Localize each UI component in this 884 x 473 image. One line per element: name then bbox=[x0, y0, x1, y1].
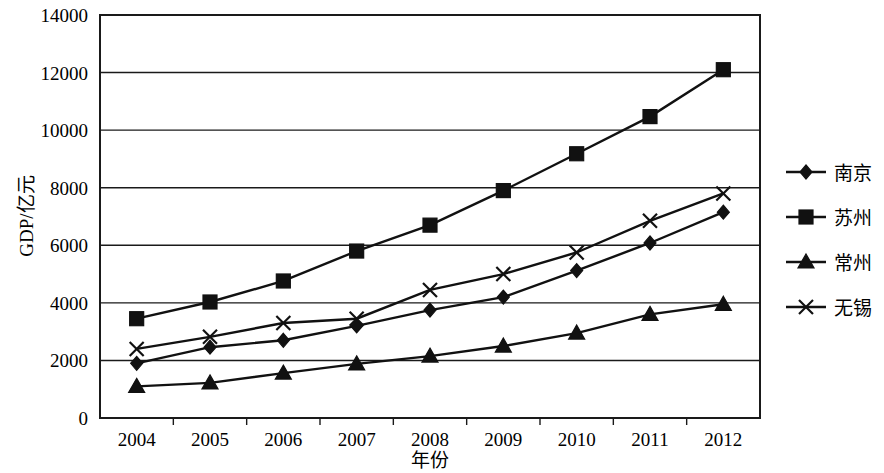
y-tick-label: 2000 bbox=[50, 350, 88, 371]
data-point-南京-2007 bbox=[351, 319, 363, 333]
y-tick-label: 8000 bbox=[50, 178, 88, 199]
x-axis-title: 年份 bbox=[411, 450, 449, 471]
legend-label-南京: 南京 bbox=[834, 163, 872, 184]
y-axis-title: GDP/亿元 bbox=[16, 175, 37, 256]
gdp-line-chart: 02000400060008000100001200014000 2004200… bbox=[0, 0, 884, 473]
y-tick-label: 6000 bbox=[50, 235, 88, 256]
data-point-苏州-2007 bbox=[350, 244, 364, 258]
x-tick-label: 2012 bbox=[704, 429, 742, 450]
data-point-南京-2010 bbox=[571, 264, 583, 278]
data-point-南京-2011 bbox=[644, 236, 656, 250]
series-苏州 bbox=[130, 63, 731, 326]
series-line-无锡 bbox=[137, 193, 724, 348]
x-tick-label: 2005 bbox=[191, 429, 229, 450]
data-point-苏州-2012 bbox=[716, 63, 730, 77]
y-tick-labels-group: 02000400060008000100001200014000 bbox=[41, 5, 89, 429]
data-point-南京-2008 bbox=[424, 303, 436, 317]
data-point-苏州-2008 bbox=[423, 218, 437, 232]
data-point-苏州-2010 bbox=[570, 147, 584, 161]
legend-label-无锡: 无锡 bbox=[834, 298, 872, 319]
y-tick-label: 10000 bbox=[41, 120, 89, 141]
data-point-苏州-2005 bbox=[203, 295, 217, 309]
data-point-南京-2006 bbox=[277, 333, 289, 347]
legend-entry-南京[interactable]: 南京 bbox=[786, 163, 872, 184]
x-tick-label: 2009 bbox=[484, 429, 522, 450]
legend-marker-square bbox=[799, 210, 813, 224]
data-point-南京-2012 bbox=[717, 205, 729, 219]
chart-page: 02000400060008000100001200014000 2004200… bbox=[0, 0, 884, 473]
x-tick-label: 2010 bbox=[558, 429, 596, 450]
legend-entry-苏州[interactable]: 苏州 bbox=[786, 208, 872, 229]
x-tick-label: 2006 bbox=[264, 429, 302, 450]
series-line-南京 bbox=[137, 212, 724, 363]
legend-entry-常州[interactable]: 常州 bbox=[786, 253, 872, 274]
data-point-苏州-2006 bbox=[276, 274, 290, 288]
data-point-南京-2009 bbox=[497, 290, 509, 304]
data-series-group bbox=[129, 63, 732, 393]
series-无锡 bbox=[130, 186, 731, 355]
legend-marker-diamond bbox=[800, 165, 812, 179]
x-tick-label: 2011 bbox=[631, 429, 668, 450]
legend-label-苏州: 苏州 bbox=[834, 208, 872, 229]
y-tick-label: 12000 bbox=[41, 63, 89, 84]
data-point-苏州-2011 bbox=[643, 110, 657, 124]
y-tick-label: 4000 bbox=[50, 293, 88, 314]
x-tick-label: 2007 bbox=[338, 429, 376, 450]
x-tick-marks-group bbox=[173, 418, 686, 425]
series-line-苏州 bbox=[137, 70, 724, 319]
y-tick-label: 0 bbox=[79, 408, 89, 429]
data-point-苏州-2004 bbox=[130, 312, 144, 326]
legend: 南京苏州常州无锡 bbox=[786, 163, 872, 319]
x-tick-labels-group: 200420052006200720082009201020112012 bbox=[118, 429, 743, 450]
y-tick-label: 14000 bbox=[41, 5, 89, 26]
legend-label-常州: 常州 bbox=[834, 253, 872, 274]
data-point-苏州-2009 bbox=[496, 184, 510, 198]
x-tick-label: 2004 bbox=[118, 429, 157, 450]
data-point-南京-2004 bbox=[131, 356, 143, 370]
legend-entry-无锡[interactable]: 无锡 bbox=[786, 298, 872, 319]
x-tick-label: 2008 bbox=[411, 429, 449, 450]
